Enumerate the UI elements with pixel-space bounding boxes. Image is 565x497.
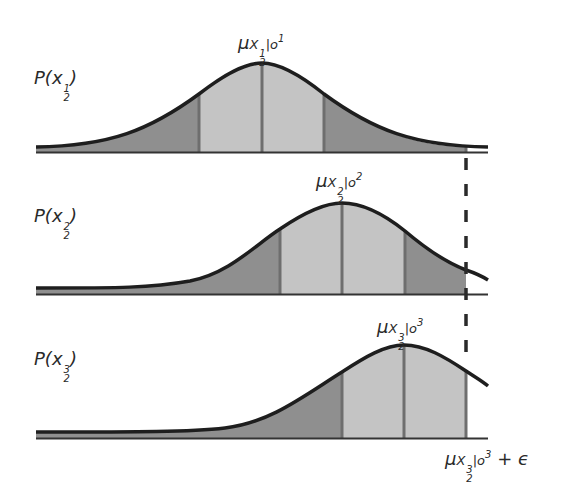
plot-1-mean-label: μX12|o1 — [238, 32, 284, 67]
mean-given-sup: 1 — [278, 33, 284, 44]
mean-var: X — [388, 321, 397, 336]
threshold-given: |o — [473, 453, 485, 468]
plot-2-outer-fill — [36, 203, 488, 294]
prob-label-base: P(x — [34, 205, 63, 226]
prob-label-close: ) — [70, 205, 77, 226]
plot-1-probability-label: P(x12) — [34, 67, 77, 102]
prob-label-close: ) — [70, 348, 77, 369]
plot-3 — [36, 345, 488, 439]
mean-var: X — [249, 37, 258, 52]
mean-given: |o — [344, 175, 356, 190]
threshold-var: X — [456, 453, 465, 468]
plot-2 — [36, 203, 488, 295]
prob-label-close: ) — [70, 67, 77, 88]
plot-3-mean-label: μX32|o3 — [377, 316, 423, 351]
prob-label-sub: 2 — [64, 93, 70, 102]
mean-var-sub: 2 — [337, 196, 343, 205]
mu-symbol: μ — [445, 448, 456, 469]
mean-given: |o — [405, 321, 417, 336]
prob-label-sub: 2 — [64, 231, 70, 240]
mean-var: X — [327, 175, 336, 190]
threshold-var-sub: 2 — [466, 474, 472, 483]
plot-2-probability-label: P(x22) — [34, 205, 77, 240]
mean-given-sup: 2 — [356, 171, 362, 182]
mean-var-sub: 2 — [259, 58, 265, 67]
mu-symbol: μ — [238, 32, 249, 53]
prob-label-base: P(x — [34, 67, 63, 88]
plot-2-mean-label: μX22|o2 — [316, 170, 362, 205]
epsilon-suffix: + ϵ — [491, 448, 529, 469]
mean-given: |o — [266, 37, 278, 52]
plot-1 — [36, 63, 488, 153]
mean-given-sup: 3 — [417, 317, 423, 328]
mean-var-sub: 2 — [398, 342, 404, 351]
mu-symbol: μ — [316, 170, 327, 191]
plot-3-probability-label: P(x32) — [34, 348, 77, 383]
mu-symbol: μ — [377, 316, 388, 337]
threshold-label: μX32|o3 + ϵ — [445, 448, 529, 483]
gaussian-diagram — [0, 0, 565, 497]
prob-label-base: P(x — [34, 348, 63, 369]
prob-label-sub: 2 — [64, 374, 70, 383]
